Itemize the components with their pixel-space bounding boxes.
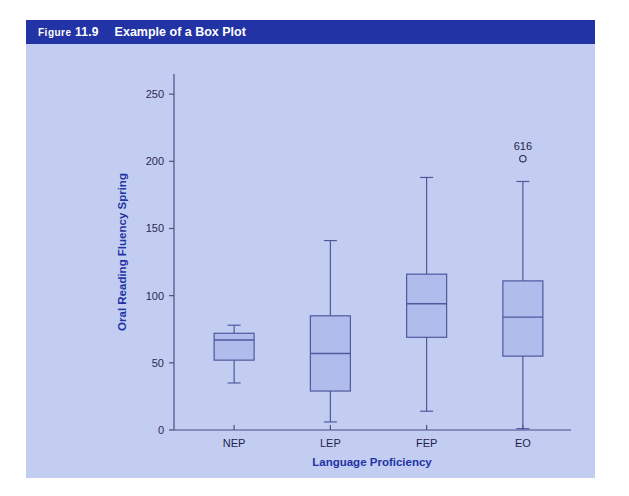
- figure-container: Figure 11.9 Example of a Box Plot 050100…: [0, 0, 629, 496]
- y-tick-label: 50: [152, 357, 164, 369]
- figure-word-label: Figure: [38, 27, 72, 38]
- figure-number: Figure 11.9: [38, 25, 99, 39]
- y-tick-label: 200: [146, 155, 164, 167]
- outlier-point: [520, 155, 526, 161]
- x-category-label: NEP: [223, 437, 246, 449]
- figure-title: Example of a Box Plot: [115, 25, 246, 39]
- x-axis-title: Language Proficiency: [312, 456, 432, 468]
- y-tick-label: 250: [146, 88, 164, 100]
- x-category-label: LEP: [320, 437, 341, 449]
- box-iqr: [407, 274, 447, 337]
- y-tick-label: 150: [146, 222, 164, 234]
- outlier-label: 616: [514, 140, 532, 152]
- y-axis-title: Oral Reading Fluency Spring: [116, 173, 128, 331]
- box-plot-nep: [214, 325, 254, 383]
- figure-number-value: 11.9: [75, 25, 99, 39]
- x-category-label: EO: [515, 437, 531, 449]
- x-category-label: FEP: [416, 437, 437, 449]
- y-tick-label: 0: [158, 424, 164, 436]
- y-axis-ticks: 050100150200250: [146, 88, 174, 436]
- y-tick-label: 100: [146, 290, 164, 302]
- box-plot-fep: [407, 177, 447, 411]
- box-plot-eo: 616: [503, 140, 543, 429]
- box-plot-series: 616: [214, 140, 543, 429]
- figure-header-bar: Figure 11.9 Example of a Box Plot: [26, 20, 595, 44]
- box-plot-lep: [310, 241, 350, 422]
- box-plot-chart: 050100150200250 NEPLEPFEPEO 616 Oral Rea…: [26, 44, 595, 478]
- x-axis-ticks: NEPLEPFEPEO: [223, 425, 531, 449]
- box-iqr: [503, 281, 543, 356]
- box-iqr: [214, 333, 254, 360]
- chart-panel: 050100150200250 NEPLEPFEPEO 616 Oral Rea…: [26, 44, 595, 478]
